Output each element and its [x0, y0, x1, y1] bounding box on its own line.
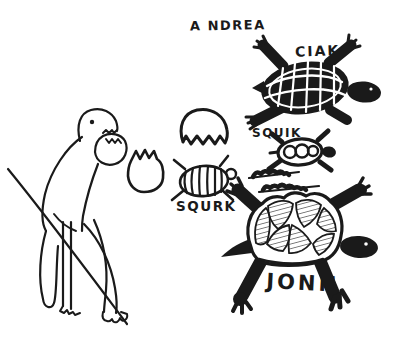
crossed-out-scribble	[249, 171, 319, 192]
ciak-head	[346, 80, 382, 104]
eggshell-bottom-half	[128, 150, 163, 192]
drawing-canvas: A NDREA SQURK	[0, 0, 396, 343]
dinosaur-head	[78, 109, 117, 141]
eggshell-top-half	[181, 109, 227, 144]
dinosaur-lower-jaw	[95, 134, 127, 165]
squrk-leg	[220, 156, 228, 166]
dinosaur-neck-back	[42, 137, 82, 231]
dinosaur-back-leg	[40, 231, 58, 307]
jonn-leg	[238, 190, 259, 209]
diagonal-stroke	[8, 169, 127, 324]
drawing-page: A NDREA SQURK	[0, 0, 396, 343]
label-ciak: CIAK	[295, 42, 341, 60]
ciak-eye	[369, 87, 372, 90]
label-squik: SQUIK	[252, 126, 302, 140]
dinosaur-figure	[8, 109, 127, 324]
jonn-leg	[242, 261, 261, 296]
jonn-eye	[364, 242, 368, 246]
squrk-leg	[174, 160, 185, 169]
dinosaur-upper-teeth	[103, 130, 117, 133]
dinosaur-eye	[90, 120, 94, 124]
dinosaur-front-leg-inner	[94, 220, 107, 312]
label-squrk: SQURK	[176, 198, 237, 214]
dinosaur-arm	[54, 214, 76, 231]
dinosaur-lower-teeth	[106, 139, 121, 143]
jonn-head	[339, 235, 378, 260]
turtle-squrk	[172, 156, 236, 200]
label-jonn: JONN	[264, 269, 340, 297]
ciak-leg	[263, 45, 283, 66]
jonn-toes	[233, 302, 251, 313]
signature-text: A NDREA	[190, 17, 266, 33]
ciak-leg	[330, 110, 347, 120]
